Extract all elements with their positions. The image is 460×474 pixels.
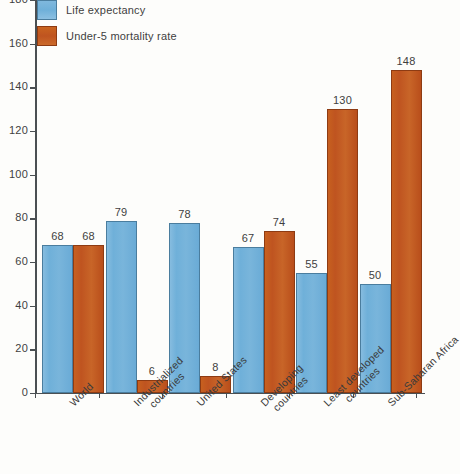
y-tick-60 <box>30 262 35 263</box>
legend-label-life-expectancy: Life expectancy <box>66 4 145 16</box>
bar-value-united-states-life-expectancy: 78 <box>165 208 204 220</box>
y-tick-label-60: 60 <box>2 255 28 267</box>
x-tick-3 <box>226 393 227 398</box>
bar-sub-saharan-africa-under-5-mortality-rate <box>391 70 422 393</box>
x-tick-1 <box>99 393 100 398</box>
y-tick-label-120: 120 <box>2 124 28 136</box>
legend-label-under5-mortality: Under-5 mortality rate <box>66 30 177 42</box>
legend-swatch-under5-mortality <box>37 26 57 46</box>
y-tick-label-160: 160 <box>2 37 28 49</box>
bar-value-developing-countries-under-5-mortality-rate: 74 <box>260 216 299 228</box>
y-tick-label-180: 180 <box>2 0 28 5</box>
y-tick-100 <box>30 175 35 176</box>
x-tick-0 <box>35 393 36 398</box>
y-tick-label-20: 20 <box>2 342 28 354</box>
y-tick-180 <box>30 0 35 1</box>
bar-value-sub-saharan-africa-under-5-mortality-rate: 148 <box>387 55 426 67</box>
bar-world-under-5-mortality-rate <box>73 245 104 393</box>
y-tick-160 <box>30 44 35 45</box>
bar-value-developing-countries-life-expectancy: 67 <box>229 232 268 244</box>
y-tick-40 <box>30 306 35 307</box>
y-tick-label-100: 100 <box>2 168 28 180</box>
bar-value-least-developed-countries-life-expectancy: 55 <box>292 258 331 270</box>
y-tick-20 <box>30 349 35 350</box>
bar-value-sub-saharan-africa-life-expectancy: 50 <box>356 269 395 281</box>
y-tick-140 <box>30 87 35 88</box>
y-tick-label-80: 80 <box>2 211 28 223</box>
y-tick-label-140: 140 <box>2 80 28 92</box>
y-tick-120 <box>30 131 35 132</box>
bar-least-developed-countries-under-5-mortality-rate <box>327 109 358 393</box>
y-tick-label-40: 40 <box>2 299 28 311</box>
y-tick-label-0: 0 <box>2 386 28 398</box>
bar-value-least-developed-countries-under-5-mortality-rate: 130 <box>323 94 362 106</box>
legend-swatch-life-expectancy <box>37 0 57 20</box>
bar-value-industrialized-countries-life-expectancy: 79 <box>102 206 141 218</box>
x-tick-6 <box>416 393 417 398</box>
bar-value-world-under-5-mortality-rate: 68 <box>69 230 108 242</box>
y-tick-80 <box>30 218 35 219</box>
y-axis-line <box>35 0 37 394</box>
bar-world-life-expectancy <box>42 245 73 393</box>
